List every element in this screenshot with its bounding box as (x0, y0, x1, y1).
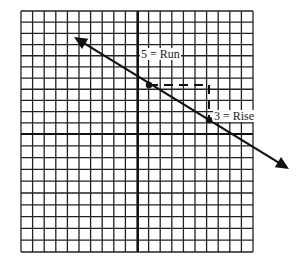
arrowhead-up-left-icon (74, 37, 88, 49)
point-1 (146, 82, 152, 88)
rise-label: 3 = Rise (213, 110, 255, 122)
run-label: 5 = Run (140, 48, 181, 60)
slope-diagram (0, 0, 305, 259)
arrowhead-down-right-icon (275, 157, 289, 169)
point-2 (206, 117, 212, 123)
